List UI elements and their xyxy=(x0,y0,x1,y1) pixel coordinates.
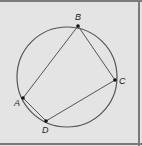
label-b: B xyxy=(75,12,81,22)
label-d: D xyxy=(42,125,49,135)
segment-bc xyxy=(78,26,115,80)
point-c xyxy=(113,78,117,82)
geometry-figure: ABCD xyxy=(0,0,142,146)
vertices xyxy=(21,24,117,123)
point-d xyxy=(44,119,48,123)
segment-cd xyxy=(46,80,115,121)
vertex-labels: ABCD xyxy=(13,12,126,135)
segment-ab xyxy=(23,26,78,98)
label-c: C xyxy=(119,76,126,86)
diagram-frame: ABCD xyxy=(0,0,142,146)
label-a: A xyxy=(13,98,20,108)
circle xyxy=(17,27,117,127)
point-b xyxy=(76,24,80,28)
point-a xyxy=(21,96,25,100)
segment-da xyxy=(23,98,46,121)
